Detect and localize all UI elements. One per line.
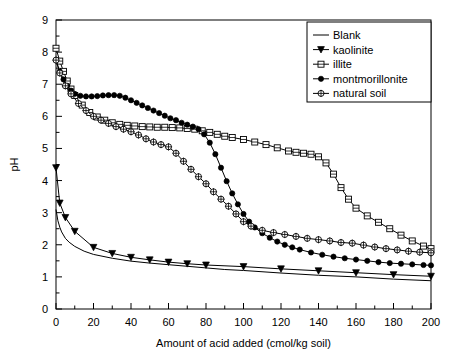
x-tick-labels: 020406080100120140160180200: [53, 316, 440, 328]
x-tick-label: 180: [384, 316, 402, 328]
data-point-kaolinite: [90, 244, 97, 250]
y-tick-label: 0: [42, 303, 48, 315]
x-tick-label: 80: [200, 316, 212, 328]
data-point-montmorillonite: [410, 262, 415, 267]
legend-label: Blank: [333, 29, 361, 41]
data-point-montmorillonite: [83, 94, 88, 99]
data-point-montmorillonite: [173, 118, 178, 123]
y-tick-labels: 0123456789: [42, 14, 48, 315]
y-tick-label: 1: [42, 271, 48, 283]
data-point-montmorillonite: [202, 132, 207, 137]
x-tick-label: 160: [347, 316, 365, 328]
y-tick-label: 9: [42, 14, 48, 26]
legend-marker-3: [318, 76, 323, 81]
legend-label: montmorillonite: [333, 73, 408, 85]
data-point-montmorillonite: [235, 202, 240, 207]
data-point-montmorillonite: [218, 165, 223, 170]
data-point-montmorillonite: [78, 93, 83, 98]
x-tick-label: 60: [162, 316, 174, 328]
chart-container: 0204060801001201401601802000123456789Amo…: [0, 0, 465, 358]
data-point-montmorillonite: [95, 94, 100, 99]
data-point-montmorillonite: [134, 100, 139, 105]
data-point-montmorillonite: [290, 245, 295, 250]
data-point-kaolinite: [53, 165, 60, 171]
data-point-montmorillonite: [106, 93, 111, 98]
x-tick-label: 100: [234, 316, 252, 328]
data-point-montmorillonite: [128, 98, 133, 103]
y-tick-label: 8: [42, 46, 48, 58]
y-tick-label: 7: [42, 78, 48, 90]
data-point-kaolinite: [62, 214, 69, 220]
data-point-montmorillonite: [398, 261, 403, 266]
data-point-montmorillonite: [275, 239, 280, 244]
data-point-montmorillonite: [365, 258, 370, 263]
data-point-montmorillonite: [190, 124, 195, 129]
data-point-montmorillonite: [297, 247, 302, 252]
data-point-montmorillonite: [320, 252, 325, 257]
data-point-montmorillonite: [112, 93, 117, 98]
data-point-montmorillonite: [213, 152, 218, 157]
data-point-montmorillonite: [267, 235, 272, 240]
data-point-montmorillonite: [230, 191, 235, 196]
data-point-montmorillonite: [331, 254, 336, 259]
y-tick-label: 3: [42, 207, 48, 219]
data-point-montmorillonite: [342, 256, 347, 261]
data-point-montmorillonite: [157, 111, 162, 116]
data-point-montmorillonite: [224, 179, 229, 184]
data-point-kaolinite: [56, 200, 63, 206]
data-point-montmorillonite: [376, 260, 381, 265]
data-point-montmorillonite: [117, 93, 122, 98]
data-point-montmorillonite: [185, 122, 190, 127]
data-point-montmorillonite: [282, 242, 287, 247]
x-tick-label: 0: [53, 316, 59, 328]
data-point-montmorillonite: [428, 263, 433, 268]
data-point-montmorillonite: [145, 105, 150, 110]
x-tick-label: 140: [309, 316, 327, 328]
x-tick-label: 20: [87, 316, 99, 328]
data-point-montmorillonite: [308, 250, 313, 255]
data-point-montmorillonite: [387, 260, 392, 265]
data-point-montmorillonite: [207, 140, 212, 145]
x-axis-ticks: [56, 303, 431, 309]
ph-titration-chart: 0204060801001201401601802000123456789Amo…: [0, 0, 465, 358]
data-point-montmorillonite: [241, 211, 246, 216]
legend-label: illite: [333, 58, 352, 70]
y-tick-label: 4: [42, 175, 48, 187]
x-tick-label: 120: [272, 316, 290, 328]
data-point-montmorillonite: [196, 127, 201, 132]
data-point-montmorillonite: [100, 93, 105, 98]
data-point-montmorillonite: [168, 116, 173, 121]
data-point-montmorillonite: [162, 113, 167, 118]
data-point-montmorillonite: [421, 262, 426, 267]
y-tick-label: 5: [42, 142, 48, 154]
x-axis-title: Amount of acid added (cmol/kg soil): [156, 337, 331, 349]
data-point-montmorillonite: [151, 108, 156, 113]
x-tick-label: 200: [422, 316, 440, 328]
legend: Blankkaoliniteillitemontmorillonitenatur…: [307, 22, 431, 102]
y-tick-label: 6: [42, 110, 48, 122]
x-tick-label: 40: [125, 316, 137, 328]
data-point-montmorillonite: [123, 95, 128, 100]
data-point-montmorillonite: [89, 94, 94, 99]
data-point-montmorillonite: [353, 257, 358, 262]
y-tick-label: 2: [42, 239, 48, 251]
legend-label: natural soil: [333, 87, 386, 99]
data-point-montmorillonite: [179, 120, 184, 125]
y-axis-title: pH: [8, 157, 20, 171]
legend-label: kaolinite: [333, 44, 373, 56]
data-point-montmorillonite: [140, 103, 145, 108]
